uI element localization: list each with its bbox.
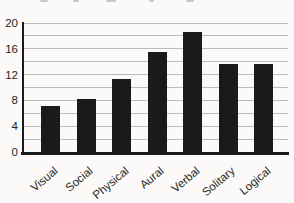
bar-logical <box>254 64 273 152</box>
bar-social <box>77 99 96 152</box>
y-axis-tick-label: 8 <box>0 93 18 107</box>
y-axis-tick-label: 16 <box>0 42 18 56</box>
gridline <box>23 23 288 24</box>
y-axis-tick-label: 4 <box>0 119 18 133</box>
gridline <box>23 48 288 49</box>
bar-visual <box>41 106 60 152</box>
bar-physical <box>112 79 131 152</box>
y-axis-tick-label: 0 <box>0 145 18 159</box>
plot-area: 048121620VisualSocialPhysicalAuralVerbal… <box>0 0 294 203</box>
bar-solitary <box>219 64 238 152</box>
bar-aural <box>148 52 167 152</box>
x-axis-line <box>21 152 289 155</box>
y-axis-tick-label: 20 <box>0 16 18 30</box>
bar-verbal <box>183 32 202 152</box>
y-axis-tick-label: 12 <box>0 68 18 82</box>
bar-chart: 048121620VisualSocialPhysicalAuralVerbal… <box>0 0 294 203</box>
gridline <box>23 35 288 36</box>
y-axis-line <box>22 22 24 154</box>
